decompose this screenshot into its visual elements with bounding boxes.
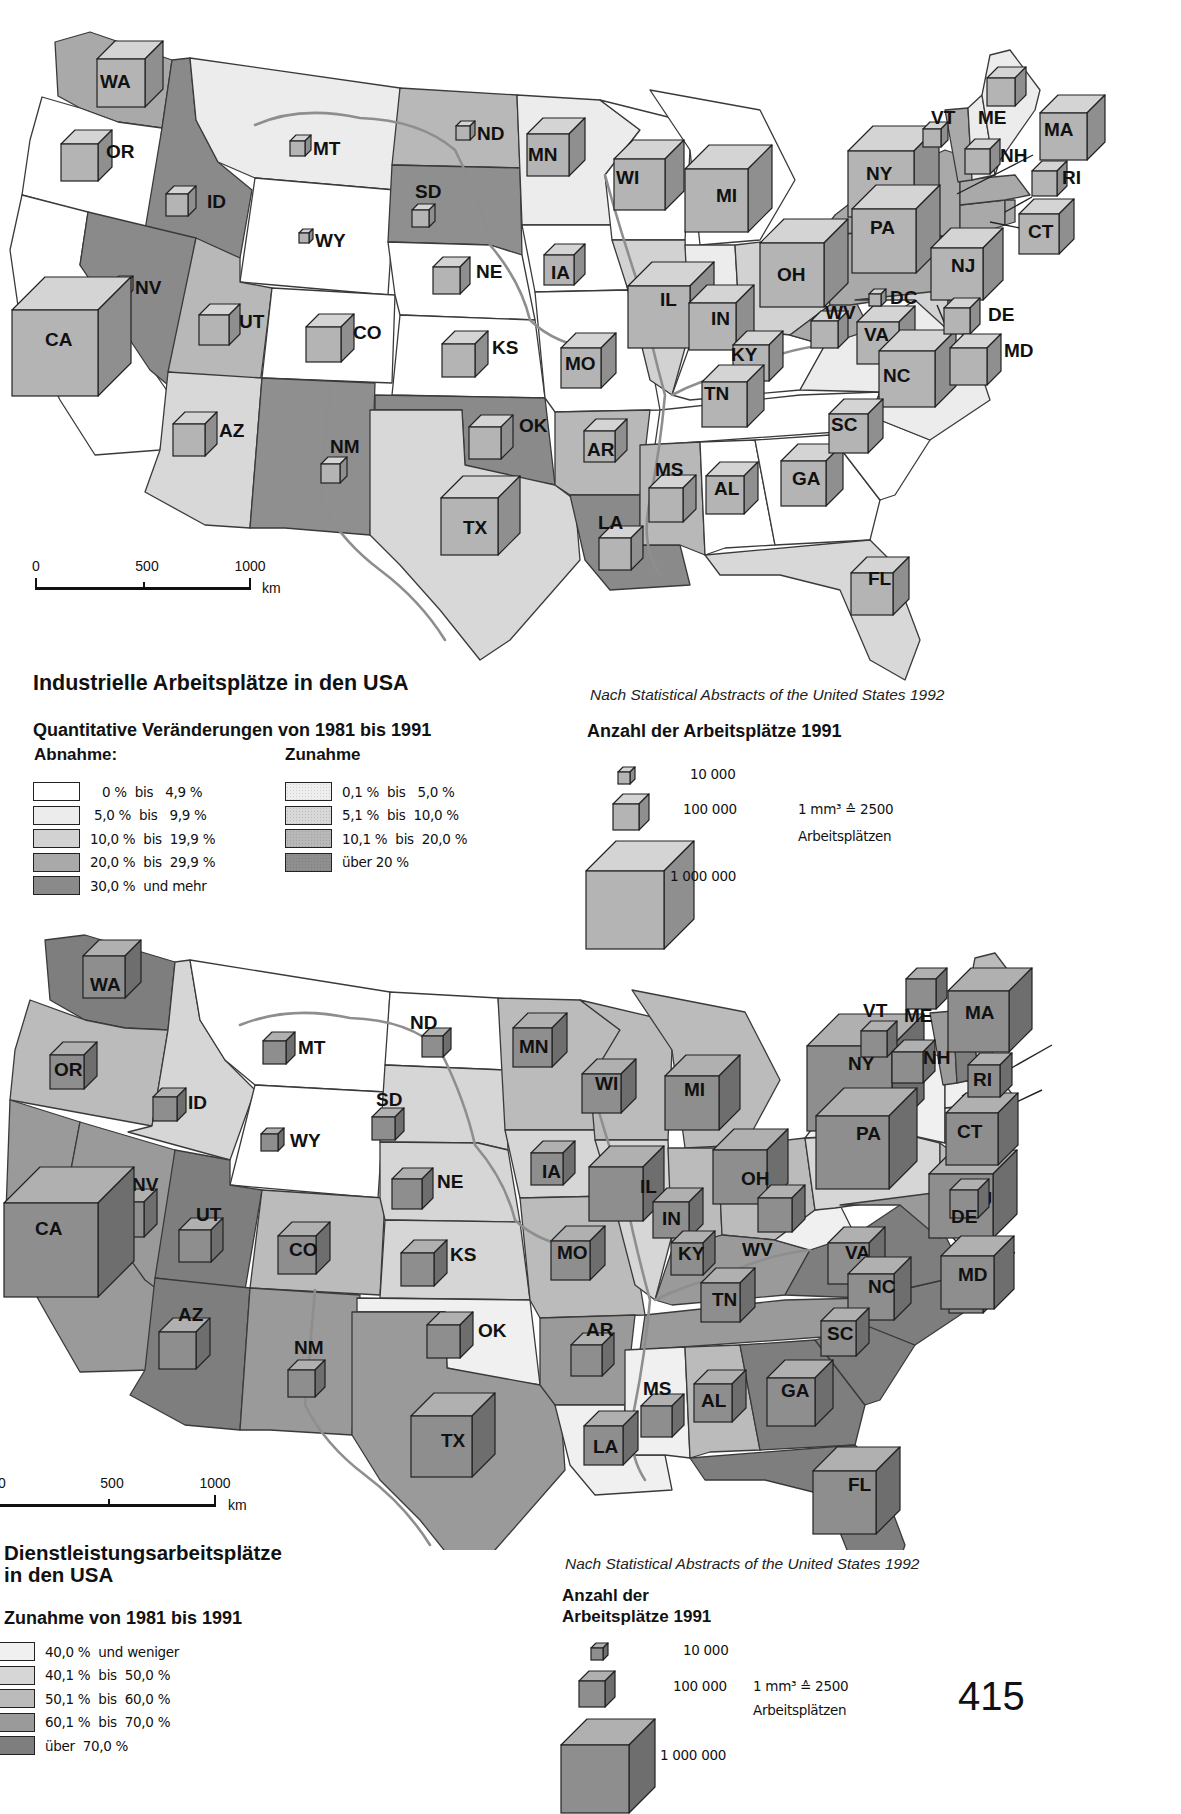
- state-label-LA: LA: [598, 513, 623, 532]
- state-label-AR: AR: [587, 440, 614, 459]
- scale-tick-0: 0: [0, 1475, 6, 1491]
- state-label-AR: AR: [586, 1320, 613, 1339]
- state-label-NJ: NJ: [951, 256, 975, 275]
- legend-item: 5,1 % bis 10,0 %: [285, 804, 467, 828]
- legend-size-10000: 10 000: [683, 1642, 728, 1658]
- state-label-MT: MT: [313, 139, 340, 158]
- legend-swatch: [0, 1736, 35, 1755]
- legend-item: 0 % bis 4,9 %: [33, 780, 215, 804]
- legend-swatch: [0, 1666, 35, 1685]
- state-label-NY: NY: [866, 164, 892, 183]
- legend-label: 0,1 % bis 5,0 %: [342, 784, 455, 800]
- state-label-NC: NC: [868, 1277, 895, 1296]
- state-label-NE: NE: [437, 1172, 463, 1191]
- state-label-IA: IA: [542, 1162, 561, 1181]
- legend-item: 40,1 % bis 50,0 %: [0, 1664, 179, 1688]
- legend-item: 20,0 % bis 29,9 %: [33, 851, 215, 875]
- state-label-NM: NM: [330, 437, 360, 456]
- state-label-AL: AL: [701, 1391, 726, 1410]
- state-label-MD: MD: [958, 1265, 988, 1284]
- legend-label: über 20 %: [342, 854, 409, 870]
- state-label-NC: NC: [883, 366, 910, 385]
- state-label-OK: OK: [519, 416, 548, 435]
- legend-label: 50,1 % bis 60,0 %: [45, 1691, 170, 1707]
- state-label-WA: WA: [100, 72, 131, 91]
- legend-label: 40,0 % und weniger: [45, 1644, 179, 1660]
- map-industrial: WAORIDMTNDSDWYNVUTCONEKSCAAZNMOKTXMNIAMO…: [0, 0, 1181, 930]
- legend-item: 50,1 % bis 60,0 %: [0, 1687, 179, 1711]
- map-title-services-line2: in den USA: [4, 1563, 113, 1587]
- map-title-industrial: Industrielle Arbeitsplätze in den USA: [33, 671, 409, 696]
- legend-swatch: [0, 1642, 35, 1661]
- legend-swatch: [33, 853, 80, 872]
- legend-volume-unit: Arbeitsplätzen: [798, 828, 891, 844]
- state-label-KY: KY: [731, 345, 757, 364]
- state-label-VT: VT: [863, 1001, 887, 1020]
- legend-item: 10,1 % bis 20,0 %: [285, 827, 467, 851]
- state-label-NE: NE: [476, 262, 502, 281]
- legend-title-size-industrial: Anzahl der Arbeitsplätze 1991: [587, 721, 841, 742]
- state-label-DE: DE: [951, 1207, 977, 1226]
- legend-swatch: [285, 782, 332, 801]
- cube-size-legend-services: 10 000 100 000 1 000 000 1 mm³ ≙ 2500 Ar…: [560, 1640, 920, 1810]
- map-services: WAORIDMTNDSDWYNVUTCONEKSCAAZNMOKTXMNIAMO…: [0, 930, 1181, 1811]
- legend-swatch: [285, 806, 332, 825]
- scale-unit: km: [228, 1497, 247, 1513]
- scale-bar-services: 0 500 1000 km: [0, 1475, 258, 1515]
- state-label-MO: MO: [565, 354, 596, 373]
- state-label-WI: WI: [616, 168, 639, 187]
- legend-item: 10,0 % bis 19,9 %: [33, 827, 215, 851]
- legend-size-1000000: 1 000 000: [670, 868, 736, 884]
- legend-swatch: [33, 829, 80, 848]
- legend-heading-increase: Zunahme: [285, 745, 361, 765]
- state-label-CT: CT: [1028, 222, 1053, 241]
- state-label-OK: OK: [478, 1321, 507, 1340]
- legend-label: 30,0 % und mehr: [90, 878, 207, 894]
- legend-swatch: [285, 853, 332, 872]
- legend-title-change-industrial: Quantitative Veränderungen von 1981 bis …: [33, 720, 431, 741]
- state-label-DE: DE: [988, 305, 1014, 324]
- state-label-CA: CA: [35, 1219, 62, 1238]
- legend-title-size-services-line2: Arbeitsplätze 1991: [562, 1607, 711, 1627]
- state-label-TN: TN: [704, 384, 729, 403]
- scale-tick-500: 500: [100, 1475, 123, 1491]
- scale-bar-industrial: 0 500 1000 km: [30, 558, 290, 598]
- legend-size-1000000: 1 000 000: [660, 1747, 726, 1763]
- legend-label: 5,0 % bis 9,9 %: [90, 807, 207, 823]
- state-label-TN: TN: [712, 1290, 737, 1309]
- state-label-WV: WV: [825, 303, 856, 322]
- legend-label: 10,1 % bis 20,0 %: [342, 831, 467, 847]
- scale-unit: km: [262, 580, 281, 596]
- state-label-IN: IN: [662, 1209, 681, 1228]
- state-label-SD: SD: [376, 1090, 402, 1109]
- state-label-LA: LA: [593, 1437, 618, 1456]
- state-label-AL: AL: [714, 479, 739, 498]
- legend-decrease-list: 0 % bis 4,9 % 5,0 % bis 9,9 % 10,0 % bis…: [33, 780, 215, 898]
- legend-size-100000: 100 000: [683, 801, 737, 817]
- state-label-TX: TX: [463, 518, 487, 537]
- legend-title-size-services-line1: Anzahl der: [562, 1586, 649, 1606]
- state-label-KY: KY: [678, 1244, 704, 1263]
- state-label-FL: FL: [868, 569, 891, 588]
- state-label-GA: GA: [792, 469, 821, 488]
- legend-label: 10,0 % bis 19,9 %: [90, 831, 215, 847]
- state-label-CT: CT: [957, 1122, 982, 1141]
- state-label-KS: KS: [450, 1245, 476, 1264]
- page-number: 415: [958, 1674, 1025, 1719]
- cube-size-legend-industrial: 10 000 100 000 1 000 000 1 mm³ ≙ 2500 Ar…: [580, 760, 960, 920]
- legend-item: 5,0 % bis 9,9 %: [33, 804, 215, 828]
- scale-tick-1000: 1000: [234, 558, 265, 574]
- state-label-NH: NH: [923, 1048, 950, 1067]
- legend-swatch: [33, 876, 80, 895]
- state-label-WI: WI: [595, 1074, 618, 1093]
- state-label-SC: SC: [827, 1324, 853, 1343]
- legend-services-list: 40,0 % und weniger 40,1 % bis 50,0 % 50,…: [0, 1640, 179, 1758]
- legend-volume-ratio: 1 mm³ ≙ 2500: [753, 1678, 848, 1694]
- legend-swatch: [0, 1713, 35, 1732]
- state-label-MI: MI: [716, 186, 737, 205]
- state-label-MD: MD: [1004, 341, 1034, 360]
- state-label-SD: SD: [415, 182, 441, 201]
- state-label-OR: OR: [106, 142, 135, 161]
- state-label-OH: OH: [777, 265, 806, 284]
- state-label-PA: PA: [856, 1124, 881, 1143]
